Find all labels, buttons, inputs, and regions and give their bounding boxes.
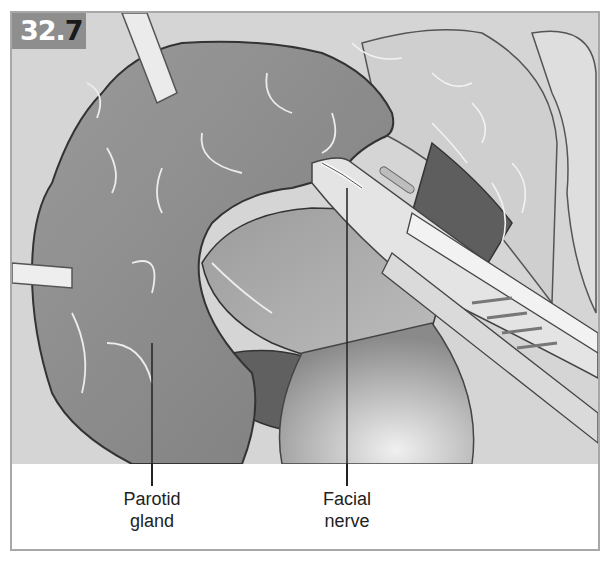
label-parotid-line2: gland xyxy=(112,510,192,532)
label-parotid-line1: Parotid xyxy=(112,488,192,510)
facial-nerve-leader-line xyxy=(346,464,348,486)
label-facial-line1: Facial xyxy=(307,488,387,510)
parotid-leader-line xyxy=(151,464,153,486)
figure-frame: 32.7 Parotid gland Facial nerve xyxy=(10,11,600,551)
figure-number-prefix: 32. xyxy=(20,15,65,46)
label-facial-line2: nerve xyxy=(307,510,387,532)
surgical-illustration: 32.7 xyxy=(12,13,598,464)
figure-number-badge: 32.7 xyxy=(12,13,86,49)
label-parotid-gland: Parotid gland xyxy=(112,488,192,532)
label-facial-nerve: Facial nerve xyxy=(307,488,387,532)
figure-number-suffix: 7 xyxy=(65,15,83,46)
parotid-dissection-drawing xyxy=(12,13,598,464)
